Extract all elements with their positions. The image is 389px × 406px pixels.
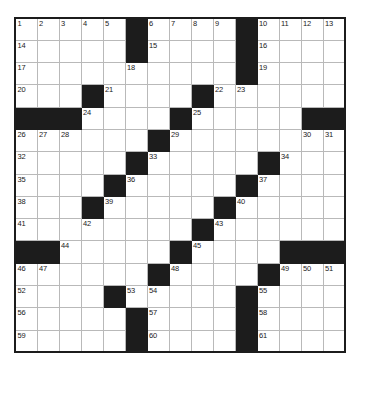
crossword-cell[interactable] <box>169 174 191 196</box>
crossword-cell[interactable]: 2 <box>37 18 59 40</box>
crossword-cell[interactable] <box>213 241 235 263</box>
crossword-cell[interactable]: 44 <box>59 241 81 263</box>
crossword-cell[interactable] <box>323 63 345 85</box>
crossword-cell[interactable]: 43 <box>213 219 235 241</box>
crossword-cell[interactable]: 26 <box>15 129 37 151</box>
crossword-cell[interactable] <box>103 308 125 330</box>
crossword-cell[interactable]: 11 <box>279 18 301 40</box>
crossword-cell[interactable]: 40 <box>235 196 257 218</box>
crossword-cell[interactable] <box>323 286 345 308</box>
crossword-cell[interactable]: 53 <box>125 286 147 308</box>
crossword-cell[interactable] <box>103 107 125 129</box>
crossword-cell[interactable]: 30 <box>301 129 323 151</box>
crossword-cell[interactable] <box>147 174 169 196</box>
crossword-cell[interactable] <box>323 330 345 352</box>
crossword-cell[interactable]: 27 <box>37 129 59 151</box>
crossword-cell[interactable]: 58 <box>257 308 279 330</box>
crossword-cell[interactable] <box>81 330 103 352</box>
crossword-cell[interactable] <box>279 129 301 151</box>
crossword-cell[interactable] <box>301 196 323 218</box>
crossword-cell[interactable] <box>279 219 301 241</box>
crossword-cell[interactable] <box>191 63 213 85</box>
crossword-cell[interactable] <box>235 219 257 241</box>
crossword-cell[interactable]: 29 <box>169 129 191 151</box>
crossword-cell[interactable] <box>323 196 345 218</box>
crossword-cell[interactable] <box>213 152 235 174</box>
crossword-cell[interactable] <box>125 107 147 129</box>
crossword-cell[interactable] <box>147 219 169 241</box>
crossword-cell[interactable]: 33 <box>147 152 169 174</box>
crossword-cell[interactable] <box>169 196 191 218</box>
crossword-cell[interactable] <box>103 263 125 285</box>
crossword-grid[interactable]: 1234567891011121314151617181920212223242… <box>14 17 346 353</box>
crossword-cell[interactable] <box>37 196 59 218</box>
crossword-cell[interactable] <box>59 196 81 218</box>
crossword-cell[interactable] <box>323 308 345 330</box>
crossword-cell[interactable] <box>125 263 147 285</box>
crossword-cell[interactable] <box>81 152 103 174</box>
crossword-cell[interactable] <box>191 152 213 174</box>
crossword-cell[interactable] <box>147 196 169 218</box>
crossword-cell[interactable] <box>279 107 301 129</box>
crossword-cell[interactable] <box>191 40 213 62</box>
crossword-cell[interactable] <box>37 308 59 330</box>
crossword-cell[interactable]: 6 <box>147 18 169 40</box>
crossword-cell[interactable]: 31 <box>323 129 345 151</box>
crossword-cell[interactable] <box>59 63 81 85</box>
crossword-cell[interactable] <box>257 196 279 218</box>
crossword-cell[interactable]: 52 <box>15 286 37 308</box>
crossword-cell[interactable] <box>191 174 213 196</box>
crossword-cell[interactable] <box>257 107 279 129</box>
crossword-cell[interactable]: 20 <box>15 85 37 107</box>
crossword-cell[interactable] <box>235 107 257 129</box>
crossword-cell[interactable] <box>257 241 279 263</box>
crossword-cell[interactable] <box>191 308 213 330</box>
crossword-cell[interactable]: 16 <box>257 40 279 62</box>
crossword-cell[interactable] <box>37 286 59 308</box>
crossword-cell[interactable] <box>125 85 147 107</box>
crossword-cell[interactable]: 1 <box>15 18 37 40</box>
crossword-cell[interactable] <box>301 63 323 85</box>
crossword-cell[interactable] <box>59 40 81 62</box>
crossword-cell[interactable] <box>301 152 323 174</box>
crossword-cell[interactable]: 9 <box>213 18 235 40</box>
crossword-cell[interactable] <box>169 330 191 352</box>
crossword-cell[interactable]: 15 <box>147 40 169 62</box>
crossword-cell[interactable] <box>213 308 235 330</box>
crossword-cell[interactable]: 8 <box>191 18 213 40</box>
crossword-cell[interactable]: 47 <box>37 263 59 285</box>
crossword-cell[interactable] <box>235 241 257 263</box>
crossword-cell[interactable]: 7 <box>169 18 191 40</box>
crossword-cell[interactable]: 55 <box>257 286 279 308</box>
crossword-cell[interactable] <box>191 286 213 308</box>
crossword-cell[interactable]: 34 <box>279 152 301 174</box>
crossword-cell[interactable]: 60 <box>147 330 169 352</box>
crossword-cell[interactable] <box>37 330 59 352</box>
crossword-cell[interactable]: 25 <box>191 107 213 129</box>
crossword-cell[interactable]: 28 <box>59 129 81 151</box>
crossword-cell[interactable] <box>279 286 301 308</box>
crossword-cell[interactable]: 17 <box>15 63 37 85</box>
crossword-cell[interactable] <box>191 330 213 352</box>
crossword-cell[interactable] <box>191 196 213 218</box>
crossword-cell[interactable]: 36 <box>125 174 147 196</box>
crossword-cell[interactable] <box>147 63 169 85</box>
crossword-cell[interactable] <box>301 308 323 330</box>
crossword-cell[interactable]: 13 <box>323 18 345 40</box>
crossword-cell[interactable] <box>103 152 125 174</box>
crossword-cell[interactable] <box>81 174 103 196</box>
crossword-cell[interactable] <box>213 129 235 151</box>
crossword-cell[interactable]: 46 <box>15 263 37 285</box>
crossword-cell[interactable] <box>213 286 235 308</box>
crossword-cell[interactable] <box>235 263 257 285</box>
crossword-cell[interactable]: 3 <box>59 18 81 40</box>
crossword-cell[interactable]: 50 <box>301 263 323 285</box>
crossword-cell[interactable]: 4 <box>81 18 103 40</box>
crossword-cell[interactable]: 5 <box>103 18 125 40</box>
crossword-cell[interactable] <box>279 63 301 85</box>
crossword-cell[interactable] <box>81 241 103 263</box>
crossword-cell[interactable] <box>257 129 279 151</box>
crossword-cell[interactable] <box>235 152 257 174</box>
crossword-cell[interactable] <box>103 330 125 352</box>
crossword-cell[interactable]: 45 <box>191 241 213 263</box>
